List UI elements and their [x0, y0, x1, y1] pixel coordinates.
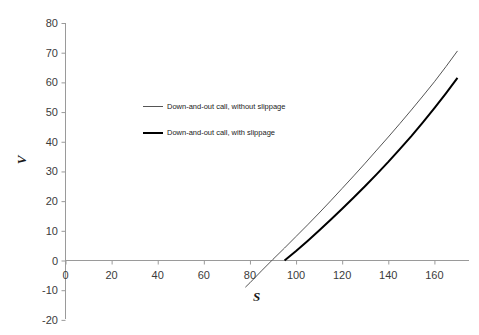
x-axis-tick-label: 120: [333, 269, 351, 281]
plot-area: [0, 0, 479, 335]
legend-item: Down-and-out call, with slippage: [143, 124, 285, 141]
legend-item: Down-and-out call, without slippage: [143, 98, 285, 115]
legend-item-label: Down-and-out call, without slippage: [167, 102, 285, 111]
y-axis-tick-label: -20: [28, 314, 58, 326]
x-axis-tick-label: 140: [379, 269, 397, 281]
x-axis-ticks: [66, 261, 435, 265]
chart-legend: Down-and-out call, without slippage Down…: [143, 98, 285, 141]
y-axis-tick-label: 70: [28, 47, 58, 59]
series-line-with-slippage: [285, 78, 458, 261]
x-axis-tick-label: 0: [62, 269, 68, 281]
series-line-without-slippage: [245, 51, 457, 287]
y-axis-tick-label: 0: [28, 255, 58, 267]
x-axis-tick-label: 20: [105, 269, 117, 281]
y-axis-title: V: [14, 156, 30, 165]
x-axis-tick-label: 40: [152, 269, 164, 281]
y-axis-tick-label: 50: [28, 106, 58, 118]
y-axis-tick-label: 10: [28, 225, 58, 237]
y-axis-tick-label: 60: [28, 76, 58, 88]
legend-swatch-thick-icon: [143, 132, 163, 134]
y-axis-tick-label: 80: [28, 17, 58, 29]
x-axis-tick-label: 80: [244, 269, 256, 281]
x-axis-title: S: [253, 289, 260, 305]
legend-item-label: Down-and-out call, with slippage: [167, 128, 275, 137]
x-axis-tick-label: 100: [287, 269, 305, 281]
x-axis-tick-label: 60: [198, 269, 210, 281]
y-axis-tick-label: -10: [28, 284, 58, 296]
y-axis-tick-label: 40: [28, 136, 58, 148]
y-axis-tick-label: 20: [28, 195, 58, 207]
y-axis-tick-label: 30: [28, 165, 58, 177]
x-axis-tick-label: 160: [425, 269, 443, 281]
legend-swatch-thin-icon: [143, 106, 163, 107]
chart-container: 80706050403020100-10-20 0204060801001201…: [0, 0, 479, 335]
